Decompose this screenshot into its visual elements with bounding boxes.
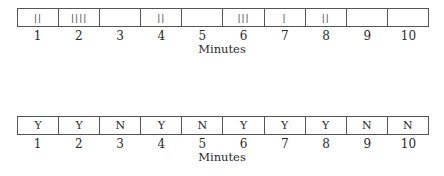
axis-label: Minutes	[0, 42, 444, 56]
yn-cell-2: Y	[59, 117, 100, 134]
minute-label: 8	[305, 137, 346, 151]
tally-cell-8: ||	[306, 9, 347, 26]
tally-cell-9	[347, 9, 388, 26]
minute-label: 4	[141, 137, 182, 151]
minute-label: 9	[347, 137, 388, 151]
tally-cell-2: ||||	[59, 9, 100, 26]
yn-cell-9: N	[347, 117, 388, 134]
yn-cell-5: N	[182, 117, 223, 134]
minute-label: 9	[347, 29, 388, 43]
minute-label: 10	[388, 137, 429, 151]
minute-label: 6	[223, 137, 264, 151]
tally-marks: ||||	[71, 13, 87, 23]
tally-cell-7: |	[265, 9, 306, 26]
minute-label: 10	[388, 29, 429, 43]
yn-cell-8: Y	[306, 117, 347, 134]
minute-label: 4	[141, 29, 182, 43]
tally-cell-6: |||	[223, 9, 264, 26]
tally-marks: ||	[157, 13, 165, 23]
minute-label: 3	[99, 29, 140, 43]
minute-labels: 1 2 3 4 5 6 7 8 9 10	[17, 29, 429, 43]
minute-label: 5	[182, 29, 223, 43]
yes-no-strip: Y Y N Y N Y Y Y N N	[17, 116, 429, 135]
yn-cell-1: Y	[18, 117, 59, 134]
minute-label: 2	[58, 29, 99, 43]
minute-label: 8	[305, 29, 346, 43]
tally-cell-4: ||	[141, 9, 182, 26]
yn-cell-7: Y	[265, 117, 306, 134]
minute-label: 7	[264, 29, 305, 43]
tally-cell-10	[388, 9, 428, 26]
minute-label: 1	[17, 137, 58, 151]
minute-labels: 1 2 3 4 5 6 7 8 9 10	[17, 137, 429, 151]
tally-strip: || |||| || ||| | ||	[17, 8, 429, 27]
tally-cell-1: ||	[18, 9, 59, 26]
tally-marks: |||	[237, 13, 249, 23]
minute-label: 5	[182, 137, 223, 151]
yn-cell-3: N	[100, 117, 141, 134]
minute-label: 1	[17, 29, 58, 43]
minute-label: 2	[58, 137, 99, 151]
minute-label: 7	[264, 137, 305, 151]
minute-label: 3	[99, 137, 140, 151]
minute-label: 6	[223, 29, 264, 43]
yn-cell-4: Y	[141, 117, 182, 134]
axis-label: Minutes	[0, 150, 444, 164]
tally-marks: |	[283, 13, 287, 23]
tally-marks: ||	[34, 13, 42, 23]
yn-cell-10: N	[388, 117, 428, 134]
tally-cell-3	[100, 9, 141, 26]
yn-cell-6: Y	[223, 117, 264, 134]
tally-marks: ||	[322, 13, 330, 23]
tally-cell-5	[182, 9, 223, 26]
